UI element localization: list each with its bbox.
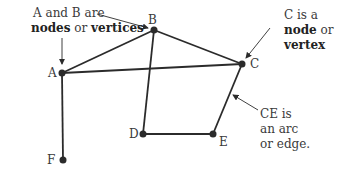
annotation-ab: A and B are nodes or vertices bbox=[31, 6, 144, 36]
node-e bbox=[210, 131, 217, 138]
node-label-f: F bbox=[47, 153, 55, 167]
edge-ab bbox=[62, 30, 154, 73]
edge-af bbox=[62, 73, 63, 160]
node-label-a: A bbox=[48, 66, 57, 80]
term-nodes: nodes bbox=[31, 21, 71, 35]
edges bbox=[62, 30, 242, 160]
arrow-to-c bbox=[246, 28, 270, 58]
term-vertex: vertex bbox=[284, 38, 325, 52]
annotation-c-line2: node or bbox=[284, 23, 334, 38]
node-a bbox=[59, 70, 66, 77]
arrow-to-ce bbox=[233, 95, 258, 110]
term-vertices: vertices bbox=[91, 21, 144, 35]
or-text: or bbox=[317, 23, 334, 37]
node-label-b: B bbox=[148, 13, 157, 27]
edge-bd bbox=[143, 30, 154, 134]
annotation-ab-line2: nodes or vertices bbox=[31, 21, 144, 36]
node-d bbox=[140, 131, 147, 138]
annotation-c: C is a node or vertex bbox=[284, 8, 334, 53]
edge-ce bbox=[213, 64, 242, 134]
edge-ac bbox=[62, 64, 242, 73]
annotation-ab-line1: A and B are bbox=[31, 6, 144, 21]
term-node: node bbox=[284, 23, 317, 37]
node-label-c: C bbox=[250, 57, 259, 71]
annotation-ce-line3: or edge. bbox=[260, 137, 310, 152]
node-f bbox=[60, 157, 67, 164]
edge-bc bbox=[154, 30, 242, 64]
annotation-c-line1: C is a bbox=[284, 8, 334, 23]
node-c bbox=[239, 61, 246, 68]
annotation-ce-line2: an arc bbox=[260, 122, 310, 137]
annotation-ce: CE is an arc or edge. bbox=[260, 107, 310, 152]
annotation-ce-line1: CE is bbox=[260, 107, 310, 122]
node-label-e: E bbox=[219, 135, 228, 149]
node-label-d: D bbox=[129, 127, 139, 141]
or-text: or bbox=[71, 21, 92, 35]
annotation-c-line3: vertex bbox=[284, 38, 334, 53]
node-b bbox=[151, 27, 158, 34]
